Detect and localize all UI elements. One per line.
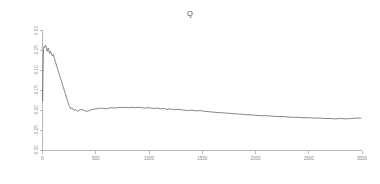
x-tick-label: 1500 xyxy=(197,156,208,161)
y-tick-label: -0.30 xyxy=(34,145,39,156)
y-tick-label: -0.20 xyxy=(34,105,39,116)
data-series-line xyxy=(43,45,361,119)
x-tick-label: 1000 xyxy=(144,156,155,161)
y-tick-label: 0.00 xyxy=(34,26,39,35)
y-tick-label: -0.10 xyxy=(34,65,39,76)
y-tick-label: -0.05 xyxy=(34,45,39,56)
x-tick-label: 2500 xyxy=(304,156,315,161)
x-tick-label: 0 xyxy=(41,156,44,161)
y-tick-label: -0.25 xyxy=(34,125,39,136)
chart-title: Q xyxy=(187,9,193,18)
chart-screenshot: Q 0.00-0.05-0.10-0.15-0.20-0.25-0.30 050… xyxy=(0,0,380,184)
y-axis: 0.00-0.05-0.10-0.15-0.20-0.25-0.30 xyxy=(34,26,43,156)
x-tick-label: 2000 xyxy=(250,156,261,161)
x-tick-label: 500 xyxy=(92,156,100,161)
x-tick-label: 3000 xyxy=(357,156,368,161)
y-tick-label: -0.15 xyxy=(34,85,39,96)
plot-canvas: Q 0.00-0.05-0.10-0.15-0.20-0.25-0.30 050… xyxy=(0,0,380,184)
x-axis: 050010001500200025003000 xyxy=(41,151,367,161)
